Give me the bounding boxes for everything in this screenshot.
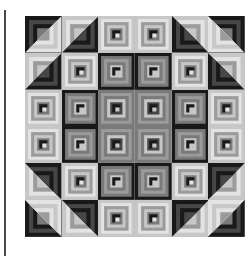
quilt-block	[208, 200, 245, 237]
quilt-block	[172, 90, 209, 127]
quilt-block	[208, 163, 245, 200]
quilt-block	[98, 163, 135, 200]
quilt-block	[135, 90, 172, 127]
quilt-block	[135, 53, 172, 90]
quilt-block	[208, 90, 245, 127]
quilt-block	[98, 200, 135, 237]
vertical-rule-line	[4, 10, 6, 256]
quilt-block	[25, 200, 62, 237]
quilt-block	[208, 53, 245, 90]
quilt-block	[135, 16, 172, 53]
quilt-block	[25, 53, 62, 90]
quilt-block	[62, 90, 99, 127]
quilt-block	[208, 16, 245, 53]
quilt-block	[25, 16, 62, 53]
quilt-photo	[25, 16, 245, 237]
quilt-block	[135, 200, 172, 237]
quilt-block	[98, 90, 135, 127]
quilt-block	[172, 126, 209, 163]
quilt-block	[98, 53, 135, 90]
quilt-block	[25, 163, 62, 200]
quilt-block	[172, 16, 209, 53]
quilt-block	[172, 200, 209, 237]
quilt-block	[62, 126, 99, 163]
quilt-block	[208, 126, 245, 163]
quilt-block	[135, 126, 172, 163]
quilt-block	[25, 126, 62, 163]
quilt-block	[98, 126, 135, 163]
quilt-block	[62, 200, 99, 237]
quilt-block	[62, 16, 99, 53]
quilt-block	[25, 90, 62, 127]
quilt-block	[98, 16, 135, 53]
quilt-block	[62, 163, 99, 200]
quilt-block	[62, 53, 99, 90]
quilt-block	[172, 163, 209, 200]
quilt-block	[172, 53, 209, 90]
quilt-block	[135, 163, 172, 200]
